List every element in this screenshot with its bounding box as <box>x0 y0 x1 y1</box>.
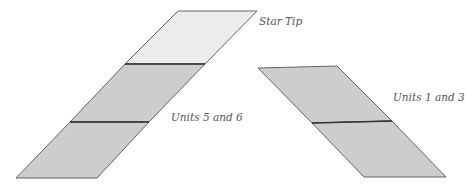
units-1-3-label: Units 1 and 3 <box>393 91 465 103</box>
diamond-strips-diagram: Star Tip Units 5 and 6 Units 1 and 3 <box>0 0 466 187</box>
star-tip-piece <box>125 11 257 64</box>
star-tip-label: Star Tip <box>259 15 302 27</box>
right-strip <box>258 66 446 177</box>
left-strip <box>16 11 257 178</box>
unit-piece-lower <box>16 122 149 178</box>
unit-piece-upper <box>258 66 392 123</box>
units-5-6-label: Units 5 and 6 <box>171 111 243 123</box>
unit-piece-lower <box>312 121 446 177</box>
